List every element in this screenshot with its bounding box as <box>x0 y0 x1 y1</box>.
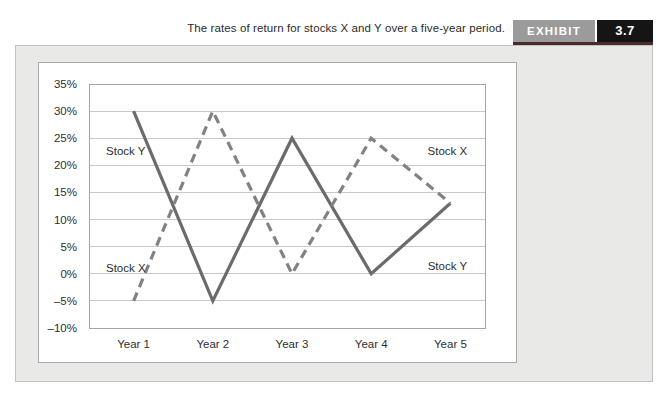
y-tick-label: –5% <box>54 295 77 307</box>
y-tick-label: 30% <box>54 105 77 117</box>
series-annotation: Stock Y <box>106 145 146 157</box>
y-tick-label: 10% <box>54 214 77 226</box>
y-tick-label: 35% <box>54 78 77 90</box>
gridlines <box>89 84 485 328</box>
y-tick-label: –10% <box>48 322 77 334</box>
series-annotation: Stock Y <box>428 260 468 272</box>
y-tick-label: 25% <box>54 132 77 144</box>
y-tick-label: 15% <box>54 186 77 198</box>
x-tick-label: Year 3 <box>276 338 309 350</box>
series-annotation: Stock X <box>428 145 468 157</box>
figure-panel: 35%30%25%20%15%10%5%0%–5%–10%Year 1Year … <box>15 45 653 382</box>
x-tick-label: Year 1 <box>117 338 150 350</box>
exhibit-caption: The rates of return for stocks X and Y o… <box>0 22 505 34</box>
y-tick-label: 5% <box>60 241 77 253</box>
x-tick-label: Year 5 <box>434 338 467 350</box>
x-tick-label: Year 2 <box>196 338 229 350</box>
series-line-stock-y <box>134 111 451 301</box>
chart-box: 35%30%25%20%15%10%5%0%–5%–10%Year 1Year … <box>38 62 517 363</box>
y-axis-labels: 35%30%25%20%15%10%5%0%–5%–10% <box>48 78 77 334</box>
line-chart: 35%30%25%20%15%10%5%0%–5%–10%Year 1Year … <box>39 63 516 362</box>
series-annotations: Stock YStock XStock XStock Y <box>106 145 468 274</box>
x-axis-labels: Year 1Year 2Year 3Year 4Year 5 <box>117 338 467 350</box>
y-tick-label: 0% <box>60 268 77 280</box>
exhibit-number-badge: 3.7 <box>597 20 653 42</box>
series-annotation: Stock X <box>106 262 146 274</box>
y-tick-label: 20% <box>54 159 77 171</box>
plot-border <box>89 84 485 328</box>
exhibit-label-badge: EXHIBIT <box>513 20 595 42</box>
page: The rates of return for stocks X and Y o… <box>0 0 671 398</box>
x-tick-label: Year 4 <box>355 338 388 350</box>
